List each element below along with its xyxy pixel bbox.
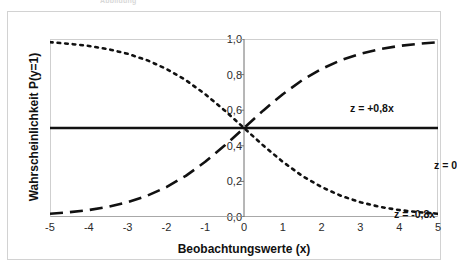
x-tick-label: -5 — [35, 221, 65, 233]
x-tick-label: 1 — [268, 221, 298, 233]
annotation-z-plus: z = +0,8x — [350, 102, 394, 114]
y-axis-title: Wahrscheinlichkeit P(y=1) — [27, 37, 41, 217]
figure-frame: Wahrscheinlichkeit P(y=1) 0,00,20,40,60,… — [7, 11, 441, 260]
x-tick-label: -4 — [74, 221, 104, 233]
chart-curves — [50, 39, 438, 217]
x-tick-label: 4 — [384, 221, 414, 233]
x-axis-title: Beobachtungswerte (x) — [50, 242, 438, 256]
x-tick-label: -3 — [113, 221, 143, 233]
annotation-z-minus: z = -0,8x — [394, 208, 435, 220]
x-axis-tick-labels: -5-4-3-2-1012345 — [50, 221, 438, 237]
annotation-z-zero: z = 0 — [434, 159, 457, 171]
x-tick-label: 2 — [307, 221, 337, 233]
x-tick-label: -2 — [151, 221, 181, 233]
x-tick-label: 0 — [229, 221, 259, 233]
plot-area: z = +0,8x z = 0 z = -0,8x — [50, 39, 438, 217]
x-tick-label: 5 — [423, 221, 453, 233]
x-tick-label: -1 — [190, 221, 220, 233]
top-caption-text: Abbildung — [100, 0, 220, 6]
x-tick-label: 3 — [345, 221, 375, 233]
